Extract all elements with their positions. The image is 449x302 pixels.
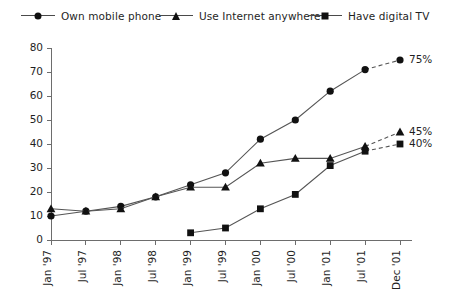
y-axis-tick-label: 0 — [36, 233, 43, 245]
data-point-square — [397, 141, 404, 148]
y-axis-tick-label: 50 — [30, 113, 43, 125]
y-axis-tick-label: 70 — [30, 65, 43, 77]
plot-area: 01020304050607080 Jan '97Jul '97Jan '98J… — [0, 34, 449, 302]
data-point-circle — [222, 169, 229, 176]
series-line-circle — [51, 70, 365, 216]
legend-item-have-digital-tv: Have digital TV — [308, 7, 429, 25]
legend-item-label: Own mobile phone — [61, 10, 161, 22]
data-point-square — [222, 225, 229, 232]
x-axis-tick-label: Jan '98 — [111, 250, 123, 287]
x-axis-tick-label: Jan '01 — [320, 250, 332, 287]
series-end-label: 45% — [409, 125, 432, 137]
legend-swatch — [159, 10, 193, 22]
y-axis-tick-label: 60 — [30, 89, 43, 101]
x-axis: Jan '97Jul '97Jan '98Jul '98Jan '99Jul '… — [41, 240, 412, 290]
y-axis-tick-label: 40 — [30, 137, 43, 149]
y-axis-tick-label: 30 — [30, 161, 43, 173]
series-forecast-line-square — [365, 144, 400, 151]
series-end-label: 40% — [409, 137, 432, 149]
x-axis-tick-label: Jul '98 — [146, 250, 158, 283]
data-point-square — [327, 162, 334, 169]
legend-item-label: Have digital TV — [348, 10, 429, 22]
chart-container: Own mobile phone Use Internet anywhere H… — [0, 0, 449, 302]
triangle-icon — [172, 12, 180, 20]
x-axis-tick-label: Jan '00 — [250, 250, 262, 287]
circle-icon — [35, 13, 42, 20]
data-point-circle — [47, 212, 54, 219]
data-point-square — [257, 205, 264, 212]
chart-legend: Own mobile phone Use Internet anywhere H… — [0, 0, 449, 34]
data-point-square — [187, 229, 194, 236]
data-point-circle — [396, 56, 403, 63]
data-point-circle — [327, 88, 334, 95]
end-labels-group: 75%45%40% — [409, 53, 432, 149]
data-point-square — [362, 148, 369, 155]
x-axis-tick-label: Jul '01 — [355, 250, 367, 283]
x-axis-tick-label: Jul '97 — [76, 250, 88, 283]
series-end-label: 75% — [409, 53, 432, 65]
data-point-square — [292, 191, 299, 198]
legend-item-label: Use Internet anywhere — [199, 10, 321, 22]
series-group — [47, 56, 405, 236]
y-axis-tick-label: 10 — [30, 209, 43, 221]
data-point-circle — [257, 136, 264, 143]
x-axis-tick-label: Jul '00 — [285, 250, 297, 283]
x-axis-tick-label: Jul '99 — [216, 250, 228, 283]
legend-swatch — [21, 10, 55, 22]
chart-svg: 01020304050607080 Jan '97Jul '97Jan '98J… — [0, 34, 449, 302]
x-axis-tick-label: Jan '97 — [41, 250, 53, 287]
data-point-circle — [292, 116, 299, 123]
legend-swatch — [308, 10, 342, 22]
y-axis-tick-label: 80 — [30, 41, 43, 53]
legend-item-own-mobile-phone: Own mobile phone — [21, 7, 161, 25]
square-icon — [322, 13, 329, 20]
data-point-triangle — [396, 128, 405, 136]
data-point-triangle — [47, 204, 56, 212]
series-line-square — [191, 151, 366, 233]
series-forecast-line-circle — [365, 60, 400, 70]
x-axis-tick-label: Jan '99 — [181, 250, 193, 287]
legend-item-use-internet-anywhere: Use Internet anywhere — [159, 7, 321, 25]
x-axis-tick-label: Dec '01 — [390, 250, 402, 290]
y-axis-tick-label: 20 — [30, 185, 43, 197]
series-forecast-line-triangle — [365, 132, 400, 146]
data-point-circle — [362, 66, 369, 73]
